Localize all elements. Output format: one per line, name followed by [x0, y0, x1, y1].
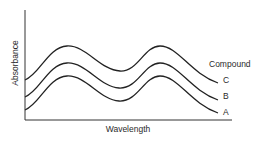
- absorbance-chart: Compound C B A Wavelength Absorbance: [0, 0, 269, 143]
- legend-label-c: C: [223, 75, 229, 85]
- legend-label-a: A: [223, 107, 229, 117]
- y-axis-label: Absorbance: [10, 40, 20, 86]
- x-axis-label: Wavelength: [106, 124, 151, 134]
- legend-title: Compound: [209, 59, 251, 69]
- curve-c: [25, 46, 218, 83]
- legend-label-b: B: [223, 91, 229, 101]
